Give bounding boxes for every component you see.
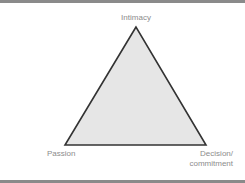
label-decision-commitment: Decision/ commitment [180, 149, 233, 169]
label-intimacy: Intimacy [120, 13, 152, 23]
label-decision: Decision/ [180, 149, 233, 159]
label-passion: Passion [47, 149, 75, 159]
bottom-border [0, 180, 245, 183]
label-commitment: commitment [180, 159, 233, 169]
triangle-shape [65, 27, 206, 145]
